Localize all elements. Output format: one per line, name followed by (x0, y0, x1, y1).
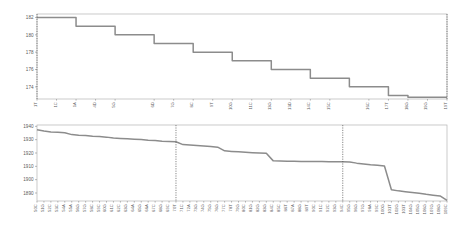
x-tick-label: 52C (47, 204, 52, 212)
x-tick-label: 59C (96, 204, 101, 212)
top-chart-panel: 1741761781801821T1C1A4D5G6D7G8C9T10G11C1… (0, 0, 469, 116)
x-tick-label: 70T (172, 204, 177, 212)
x-tick-label: 6D (150, 102, 155, 107)
x-tick-label: 13D (287, 102, 292, 110)
x-tick-label: 96G (353, 204, 358, 212)
y-tick-label: 1920 (23, 151, 34, 156)
bottom-chart-svg: 18901900191019201930194050C51G52C53C54A5… (0, 116, 469, 232)
x-tick-label: 78T (228, 204, 233, 212)
x-tick-label: 50C (33, 204, 38, 212)
x-tick-label: 87A (290, 204, 295, 212)
x-tick-label: 19G (423, 102, 428, 110)
x-tick-label: 90C (311, 204, 316, 212)
x-tick-label: 71C (179, 204, 184, 212)
x-tick-label: 51G (40, 204, 45, 212)
top-chart-svg: 1741761781801821T1C1A4D5G6D7G8C9T10G11C1… (0, 0, 469, 116)
x-tick-label: 4D (92, 102, 97, 107)
x-tick-label: 107G (429, 204, 434, 214)
x-tick-label: 94C (339, 204, 344, 212)
x-tick-label: 100G (380, 204, 385, 214)
x-tick-label: 91C (318, 204, 323, 212)
y-tick-label: 1910 (23, 164, 34, 169)
x-tick-label: 103T (401, 204, 406, 214)
x-tick-label: 56G (75, 204, 80, 212)
x-tick-label: 55A (68, 204, 73, 212)
x-tick-label: 69C (165, 204, 170, 212)
y-tick-label: 176 (26, 67, 34, 72)
x-tick-label: 88G (297, 204, 302, 212)
x-tick-label: 66A (144, 204, 149, 212)
x-tick-label: 74G (200, 204, 205, 212)
x-tick-label: 10G (228, 102, 233, 110)
x-tick-label: 16C (365, 102, 370, 110)
x-tick-label: 101T (387, 204, 392, 214)
x-tick-label: 86T (283, 204, 288, 212)
y-tick-label: 1890 (23, 191, 34, 196)
x-tick-label: 15C (326, 102, 331, 110)
x-tick-label: 89T (304, 204, 309, 212)
x-tick-label: 97G (360, 204, 365, 212)
x-tick-label: 58C (89, 204, 94, 212)
x-tick-label: 81G (248, 204, 253, 212)
x-tick-label: 82G (255, 204, 260, 212)
x-tick-label: 83G (262, 204, 267, 212)
x-tick-label: 102G (394, 204, 399, 214)
y-tick-label: 174 (26, 85, 34, 90)
x-tick-label: 1T (33, 102, 38, 107)
x-tick-label: 5G (111, 102, 116, 108)
x-tick-label: 62C (116, 204, 121, 212)
x-tick-label: 73G (193, 204, 198, 212)
x-tick-label: 84C (269, 204, 274, 212)
x-tick-label: 104G (408, 204, 413, 214)
x-tick-label: 108G (436, 204, 441, 214)
x-tick-label: 18G (404, 102, 409, 110)
x-tick-label: 14C (306, 102, 311, 110)
data-series-line (37, 17, 447, 97)
x-tick-label: 65G (137, 204, 142, 212)
x-tick-label: 80C (241, 204, 246, 212)
x-tick-label: 8C (189, 102, 194, 107)
x-tick-label: 54A (61, 204, 66, 212)
x-tick-label: 11C (248, 102, 253, 109)
y-tick-label: 1930 (23, 137, 34, 142)
x-tick-label: 109C (443, 204, 448, 214)
x-tick-label: 57G (82, 204, 87, 212)
x-tick-label: 64A (130, 204, 135, 212)
x-tick-label: 7G (170, 102, 175, 108)
x-tick-label: 61C (109, 204, 114, 212)
x-tick-label: 1A (72, 102, 77, 107)
x-tick-label: 79G (235, 204, 240, 212)
x-tick-label: 72A (186, 204, 191, 212)
x-tick-label: 13G (267, 102, 272, 110)
x-tick-label: 95G (346, 204, 351, 212)
x-tick-label: 67C (151, 204, 156, 212)
data-series-line (37, 130, 447, 201)
x-tick-label: 76G (214, 204, 219, 212)
x-tick-label: 106G (422, 204, 427, 214)
x-tick-label: 98A (367, 204, 372, 212)
x-tick-label: 1C (53, 102, 58, 107)
x-tick-label: 85C (276, 204, 281, 212)
x-tick-label: 53C (54, 204, 59, 212)
x-tick-label: 9T (209, 102, 214, 107)
bottom-chart-panel: 18901900191019201930194050C51G52C53C54A5… (0, 116, 469, 232)
figure-root: 1741761781801821T1C1A4D5G6D7G8C9T10G11C1… (0, 0, 469, 232)
x-tick-label: 105G (415, 204, 420, 214)
x-tick-label: 63G (123, 204, 128, 212)
y-tick-label: 182 (26, 15, 34, 20)
x-tick-label: 75G (207, 204, 212, 212)
y-tick-label: 180 (26, 33, 34, 38)
y-tick-label: 1940 (23, 124, 34, 129)
x-tick-label: 93G (332, 204, 337, 212)
x-tick-label: 92C (325, 204, 330, 212)
x-tick-label: 99C (374, 204, 379, 212)
x-tick-label: 77C (221, 204, 226, 212)
y-tick-label: 178 (26, 50, 34, 55)
y-tick-label: 1900 (23, 177, 34, 182)
x-tick-label: 17T (384, 102, 389, 110)
x-tick-label: 60G (102, 204, 107, 212)
x-tick-label: 68G (158, 204, 163, 212)
x-tick-label: 19T (443, 102, 448, 110)
